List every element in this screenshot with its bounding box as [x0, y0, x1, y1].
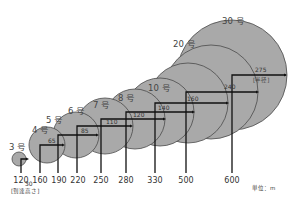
- height-value-5: 190: [51, 176, 66, 185]
- radius-caption: [半径]: [253, 76, 269, 84]
- shell-label-20: 20 号: [173, 39, 196, 49]
- height-caption: [到達高さ]: [11, 187, 39, 195]
- radius-value-7: 120: [133, 111, 145, 118]
- height-value-4: 160: [32, 176, 47, 185]
- radius-value-5: 85: [81, 127, 89, 134]
- shell-label-5: 5 号: [46, 115, 63, 125]
- height-value-10: 330: [147, 176, 162, 185]
- shell-label-7: 7 号: [93, 100, 110, 110]
- shell-label-4: 4 号: [32, 125, 49, 135]
- radius-value-20: 240: [224, 83, 236, 90]
- height-value-3: 120: [13, 176, 28, 185]
- radius-value-30: 275: [255, 66, 267, 73]
- fireworks-size-diagram: 3 号 4 号 5 号 6 号 7 号 8 号 10 号 20 号 30 号 3…: [0, 0, 291, 206]
- shell-label-10: 10 号: [148, 83, 171, 93]
- shell-label-3: 3 号: [9, 142, 26, 152]
- radius-value-4: 65: [48, 137, 56, 144]
- radius-value-6: 110: [106, 118, 118, 125]
- height-value-20: 500: [178, 176, 193, 185]
- unit-label: 単位：m: [252, 184, 275, 192]
- height-value-8: 280: [118, 176, 133, 185]
- radius-value-8: 140: [158, 104, 170, 111]
- shell-label-6: 6 号: [68, 106, 85, 116]
- height-value-7: 250: [93, 176, 108, 185]
- height-value-6: 220: [70, 176, 85, 185]
- shell-label-30: 30 号: [222, 16, 245, 26]
- shell-label-8: 8 号: [118, 93, 135, 103]
- height-value-30: 600: [224, 176, 239, 185]
- radius-value-10: 160: [187, 95, 199, 102]
